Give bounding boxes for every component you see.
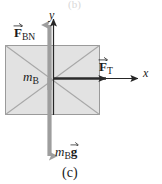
label-F-BN-subscript: BN <box>22 31 35 42</box>
label-mass-symbol: m <box>23 69 32 84</box>
label-F-BN-symbol: F <box>14 25 22 40</box>
label-F-T-symbol: F <box>99 59 107 74</box>
block-B-shape <box>6 46 100 115</box>
label-F-T-subscript: T <box>107 65 113 76</box>
y-axis-label: y <box>49 9 54 21</box>
label-g-symbol: g <box>71 144 78 159</box>
label-force-t: FT <box>99 60 113 75</box>
vector-symbol-g: g <box>71 145 78 158</box>
label-weight: mBg <box>55 145 77 160</box>
figure-caption: (c) <box>62 166 78 180</box>
label-weight-mass-symbol: m <box>55 144 64 159</box>
label-mass-subscript: B <box>32 75 38 86</box>
vector-symbol-F-T: F <box>99 60 107 73</box>
label-force-bn: FBN <box>14 26 35 41</box>
free-body-diagram-figure: (b) FBN FT mB mBg y x (c) <box>0 0 162 184</box>
vector-symbol-F-BN: F <box>14 26 22 39</box>
ghost-caption-above: (b) <box>68 0 81 10</box>
x-axis-label: x <box>143 67 148 79</box>
label-mass-b: mB <box>23 70 39 85</box>
